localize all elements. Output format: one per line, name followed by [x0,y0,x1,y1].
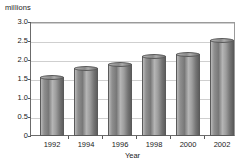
bar-cap-2000 [176,52,200,57]
x-tick-mark-4 [170,136,171,139]
x-tick-label-1992: 1992 [35,140,69,149]
y-tick-label-2-0: 2.0 [2,56,28,64]
x-tick-mark-1 [68,136,69,139]
bar-1992 [40,77,64,136]
bar-cap-1998 [142,54,166,59]
x-tick-mark-2 [102,136,103,139]
y-tick-label-1-0: 1.0 [2,94,28,102]
bar-1996 [108,64,132,136]
x-tick-label-1994: 1994 [69,140,103,149]
x-tick-mark-3 [136,136,137,139]
x-tick-label-2000: 2000 [171,140,205,149]
x-tick-label-1996: 1996 [103,140,137,149]
bars-group [30,22,235,136]
x-tick-mark-5 [204,136,205,139]
x-tick-label-1998: 1998 [137,140,171,149]
y-tick-label-0-5: 0.5 [2,113,28,121]
x-tick-label-2002: 2002 [205,140,239,149]
bar-2000 [176,54,200,136]
y-tick-label-2-5: 2.5 [2,37,28,45]
bar-cap-1996 [108,62,132,67]
bar-chart: millions 3.0 2.5 2.0 1.5 1.0 0.5 0 [0,0,243,164]
bar-cap-2002 [210,38,234,43]
y-tick-label-0: 0 [2,132,28,140]
x-axis-title: Year [30,151,235,160]
y-tick-label-1-5: 1.5 [2,75,28,83]
bar-cap-1992 [40,75,64,80]
bar-2002 [210,40,234,136]
bar-cap-1994 [74,66,98,71]
y-tick-label-3-0: 3.0 [2,18,28,26]
bar-1994 [74,68,98,136]
y-axis: 3.0 2.5 2.0 1.5 1.0 0.5 0 [0,0,28,164]
bar-1998 [142,56,166,136]
